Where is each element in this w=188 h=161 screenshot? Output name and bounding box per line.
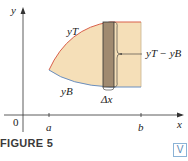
origin-label: 0 xyxy=(13,117,19,128)
strip-height-label: yT − yB xyxy=(146,48,181,59)
a-label: a xyxy=(46,122,52,133)
video-badge[interactable]: V xyxy=(173,143,187,157)
b-label: b xyxy=(138,122,144,133)
y-axis-label: y xyxy=(11,5,16,16)
figure-caption: FIGURE 5 xyxy=(0,137,53,149)
x-axis-label: x xyxy=(177,119,182,130)
approximating-strip xyxy=(103,22,114,87)
strip-width-label: Δx xyxy=(101,94,112,105)
bottom-curve-label: yB xyxy=(61,86,73,97)
top-curve-label: yT xyxy=(67,26,78,37)
